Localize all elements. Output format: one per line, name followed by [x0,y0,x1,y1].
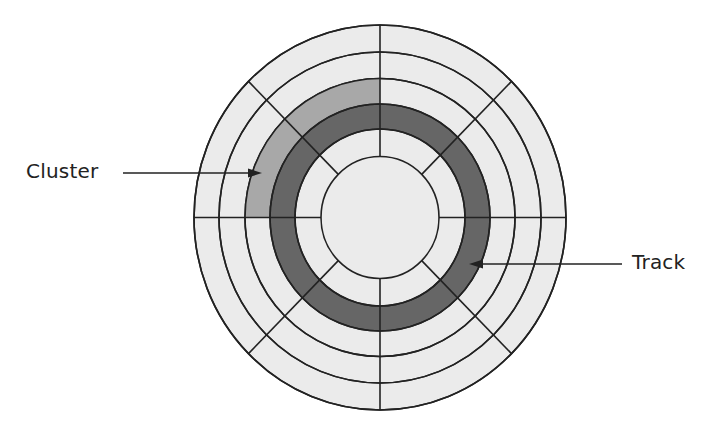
track-label: Track [632,250,685,274]
inner-hub [321,157,439,279]
cluster-label: Cluster [26,159,98,183]
disk-diagram [0,0,709,431]
disk-platter [194,25,566,410]
